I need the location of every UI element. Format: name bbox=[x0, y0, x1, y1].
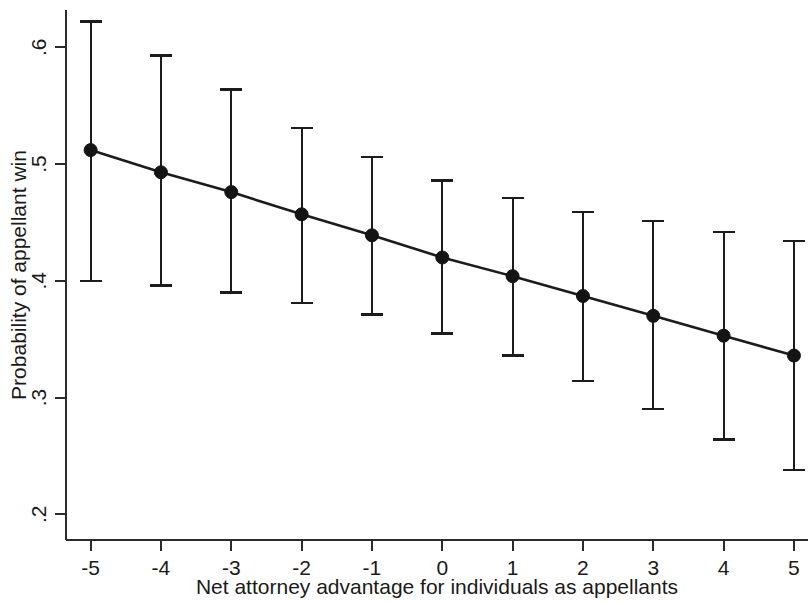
data-point-marker bbox=[717, 329, 730, 342]
y-tick-label: .4 bbox=[27, 272, 50, 290]
x-tick-label: -4 bbox=[152, 556, 171, 579]
y-axis-ticks bbox=[55, 47, 66, 514]
data-point-marker bbox=[576, 290, 589, 303]
x-tick-label: -5 bbox=[81, 556, 100, 579]
error-bars-group bbox=[80, 22, 805, 470]
y-axis-title: Probability of appellant win bbox=[7, 150, 30, 400]
data-point-marker bbox=[225, 186, 238, 199]
y-axis-tick-labels: .2.3.4.5.6 bbox=[27, 39, 50, 523]
error-bar-line-chart: .2.3.4.5.6 -5-4-3-2-1012345 Probability … bbox=[0, 0, 808, 603]
x-axis-title: Net attorney advantage for individuals a… bbox=[196, 575, 678, 598]
data-point-marker bbox=[436, 251, 449, 264]
data-point-marker bbox=[84, 144, 97, 157]
x-tick-label: 4 bbox=[718, 556, 730, 579]
y-tick-label: .3 bbox=[27, 389, 50, 407]
data-point-marker bbox=[295, 208, 308, 221]
data-point-marker bbox=[154, 166, 167, 179]
data-point-marker bbox=[365, 229, 378, 242]
data-point-marker bbox=[506, 270, 519, 283]
x-tick-label: 5 bbox=[788, 556, 800, 579]
data-point-marker bbox=[647, 309, 660, 322]
y-tick-label: .5 bbox=[27, 155, 50, 173]
data-point-marker bbox=[787, 349, 800, 362]
chart-figure: .2.3.4.5.6 -5-4-3-2-1012345 Probability … bbox=[0, 0, 808, 603]
y-tick-label: .2 bbox=[27, 506, 50, 524]
x-axis-ticks bbox=[91, 540, 794, 551]
y-tick-label: .6 bbox=[27, 39, 50, 57]
axis-lines bbox=[66, 10, 808, 540]
